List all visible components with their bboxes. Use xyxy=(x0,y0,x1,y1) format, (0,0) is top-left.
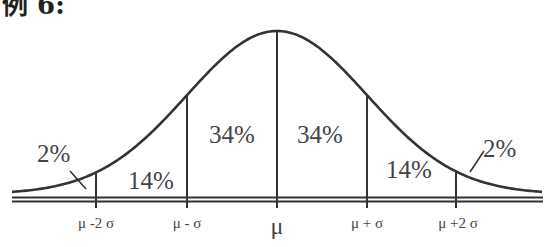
tick-label-mu-plus-sigma: μ + σ xyxy=(351,215,383,231)
region-label-left-tail: 2% xyxy=(37,140,70,167)
tick-label-mu: μ xyxy=(271,213,284,239)
example-header: 例 6: xyxy=(2,0,65,20)
tick-label-mu-minus-sigma: μ - σ xyxy=(173,215,202,231)
region-label-left-14: 14% xyxy=(128,167,174,194)
leader-left xyxy=(70,171,86,189)
region-label-left-34: 34% xyxy=(209,121,255,148)
tick-label-mu-plus-2sigma: μ +2 σ xyxy=(438,215,478,231)
leader-right xyxy=(470,151,484,172)
tick-label-mu-minus-2sigma: μ -2 σ xyxy=(78,215,114,231)
normal-distribution-diagram: 例 6: 2% 14% 34% 34% 14% 2% μ -2 σ μ - σ … xyxy=(0,0,549,247)
region-label-right-14: 14% xyxy=(386,156,432,183)
region-label-right-34: 34% xyxy=(297,121,343,148)
region-label-right-tail: 2% xyxy=(483,135,516,162)
